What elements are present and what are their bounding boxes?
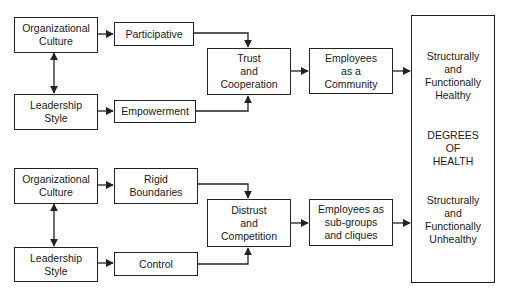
empowerment-box: Empowerment xyxy=(114,100,196,123)
org-culture-box-bottom: Organizational Culture xyxy=(14,168,98,204)
rigid-boundaries-box: Rigid Boundaries xyxy=(114,168,198,204)
leadership-style-box-top: Leadership Style xyxy=(14,94,98,130)
participative-box: Participative xyxy=(114,22,194,46)
control-box: Control xyxy=(114,252,198,276)
leadership-style-box-bottom: Leadership Style xyxy=(14,247,98,282)
degrees-of-health-box: Structurally and Functionally Healthy DE… xyxy=(411,15,495,283)
distrust-competition-box: Distrust and Competition xyxy=(207,199,291,247)
employees-subgroups-box: Employees as sub-groups and cliques xyxy=(309,199,393,246)
degrees-of-health-label: DEGREES OF HEALTH xyxy=(427,129,478,168)
unhealthy-label: Structurally and Functionally Unhealthy xyxy=(425,194,481,246)
trust-cooperation-box: Trust and Cooperation xyxy=(207,48,291,95)
employees-community-box: Employees as a Community xyxy=(309,48,393,94)
org-culture-box-top: Organizational Culture xyxy=(14,17,98,53)
healthy-label: Structurally and Functionally Healthy xyxy=(425,50,481,102)
